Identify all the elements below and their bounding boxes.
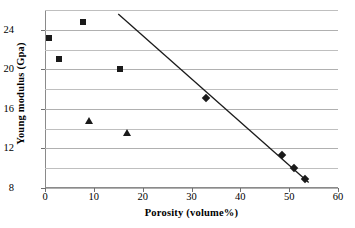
x-tick-label: 20 bbox=[128, 192, 158, 203]
y-tick-label: 8 bbox=[0, 183, 14, 194]
y-tick-label: 24 bbox=[0, 25, 14, 36]
y-tick-label: 12 bbox=[0, 143, 14, 154]
x-tick-label: 30 bbox=[177, 192, 207, 203]
data-point-square bbox=[80, 19, 86, 25]
y-tick-label: 20 bbox=[0, 64, 14, 75]
x-tick-label: 40 bbox=[225, 192, 255, 203]
plot-area bbox=[45, 10, 338, 188]
data-point-square bbox=[117, 66, 123, 72]
y-tick-label: 16 bbox=[0, 104, 14, 115]
x-tick-label: 60 bbox=[323, 192, 353, 203]
x-tick-label: 10 bbox=[79, 192, 109, 203]
x-tick-label: 50 bbox=[274, 192, 304, 203]
data-point-triangle bbox=[123, 129, 131, 136]
scatter-chart: 812162024 0102030405060 Porosity (volume… bbox=[0, 0, 355, 228]
x-tick-label: 0 bbox=[30, 192, 60, 203]
trendline bbox=[45, 10, 338, 188]
data-point-square bbox=[56, 56, 62, 62]
data-point-square bbox=[46, 35, 52, 41]
data-point-triangle bbox=[85, 117, 93, 124]
y-axis-title: Young modulus (Gpa) bbox=[15, 14, 26, 174]
x-axis-title: Porosity (volume%) bbox=[45, 207, 338, 218]
